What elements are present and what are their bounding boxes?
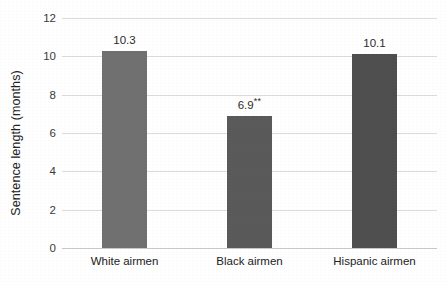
y-axis-tick-label: 6: [50, 127, 56, 139]
plot-area: 121086420 10.3White airmen6.9**Black air…: [62, 18, 437, 248]
bar-value-label: 6.9**: [238, 96, 262, 111]
x-axis-tick-label: White airmen: [91, 255, 159, 267]
bar-value-label: 10.1: [363, 37, 385, 49]
y-axis-tick-label: 8: [50, 89, 56, 101]
y-axis-title: Sentence length (months): [2, 0, 30, 285]
bar-chart: Sentence length (months) 121086420 10.3W…: [0, 0, 448, 285]
bar-fill: [227, 116, 272, 248]
bar-value-label: 10.3: [113, 34, 135, 46]
y-axis-tick-label: 2: [50, 204, 56, 216]
y-axis-tick-label: 12: [43, 12, 56, 24]
gridline-0: [62, 248, 437, 249]
bar: 10.1Hispanic airmen: [352, 54, 397, 248]
significance-marker: **: [254, 96, 262, 106]
bar-fill: [102, 51, 147, 248]
x-axis-tick-label: Black airmen: [216, 255, 282, 267]
bar: 6.9**Black airmen: [227, 116, 272, 248]
gridline-12: [62, 18, 437, 19]
y-axis-tick-label: 0: [50, 242, 56, 254]
y-axis-title-text: Sentence length (months): [9, 70, 23, 216]
x-axis-tick-label: Hispanic airmen: [333, 255, 415, 267]
y-axis-tick-label: 10: [43, 50, 56, 62]
bar-fill: [352, 54, 397, 248]
y-axis-tick-label: 4: [50, 165, 56, 177]
bar: 10.3White airmen: [102, 51, 147, 248]
